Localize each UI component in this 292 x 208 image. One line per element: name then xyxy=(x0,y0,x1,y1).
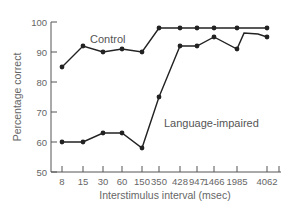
line-chart: 5060708090100 81530601503504289471466198… xyxy=(0,0,292,208)
x-tick-label: 1466 xyxy=(203,176,224,187)
x-tick-label: 60 xyxy=(117,176,128,187)
axes xyxy=(51,22,281,172)
data-point-marker xyxy=(212,35,217,40)
data-point-marker xyxy=(178,44,183,49)
y-tick-label: 100 xyxy=(31,17,47,28)
data-point-marker xyxy=(120,131,125,136)
data-point-marker xyxy=(81,140,86,145)
data-point-marker xyxy=(60,140,65,145)
data-point-marker xyxy=(265,35,270,40)
y-tick-label: 60 xyxy=(36,137,47,148)
data-point-marker xyxy=(195,26,200,31)
data-point-marker xyxy=(140,50,145,55)
data-point-marker xyxy=(235,47,240,52)
data-point-marker xyxy=(178,26,183,31)
data-point-marker xyxy=(120,47,125,52)
y-axis-title: Percentage correct xyxy=(11,53,23,142)
data-point-marker xyxy=(195,44,200,49)
language-impaired-series-label: Language-impaired xyxy=(164,117,259,129)
data-point-marker xyxy=(212,26,217,31)
y-tick-label: 80 xyxy=(36,77,47,88)
x-tick-label: 30 xyxy=(98,176,109,187)
x-axis-title: Interstimulus interval (msec) xyxy=(99,189,230,201)
x-axis-ticks: 8153060150350428947146619854062 xyxy=(59,166,279,187)
x-tick-label: 150 xyxy=(134,176,150,187)
data-point-marker xyxy=(81,44,86,49)
data-point-marker xyxy=(60,65,65,70)
data-point-marker xyxy=(157,95,162,100)
x-tick-label: 15 xyxy=(78,176,89,187)
data-point-marker xyxy=(265,26,270,31)
series-language-impaired xyxy=(60,33,270,150)
y-tick-label: 90 xyxy=(36,47,47,58)
x-tick-label: 4062 xyxy=(256,176,277,187)
data-point-marker xyxy=(157,26,162,31)
x-tick-label: 428 xyxy=(172,176,188,187)
data-point-marker xyxy=(101,131,106,136)
x-tick-label: 350 xyxy=(151,176,167,187)
y-axis-ticks: 5060708090100 xyxy=(31,17,57,178)
y-tick-label: 50 xyxy=(36,167,47,178)
data-point-marker xyxy=(140,146,145,151)
x-tick-label: 1985 xyxy=(226,176,247,187)
control-series-label: Control xyxy=(90,33,125,45)
x-tick-label: 8 xyxy=(59,176,64,187)
y-tick-label: 70 xyxy=(36,107,47,118)
data-point-marker xyxy=(235,26,240,31)
data-point-marker xyxy=(101,50,106,55)
